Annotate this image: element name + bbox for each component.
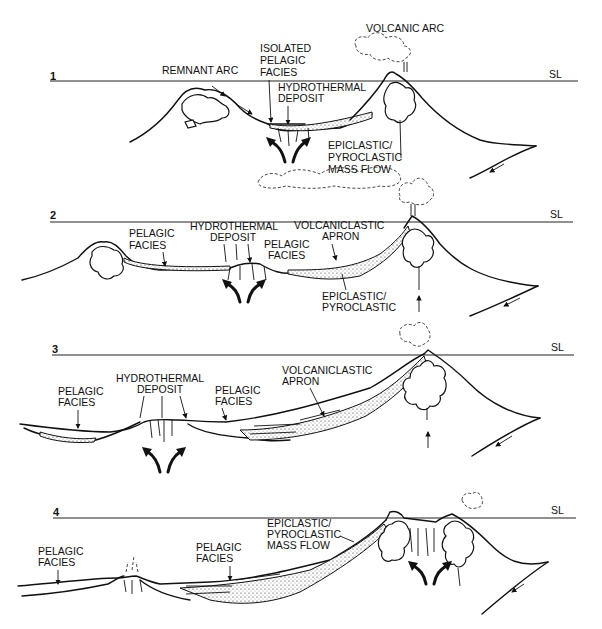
slab-arrow (496, 436, 512, 446)
label-facies: FACIES (215, 395, 252, 407)
upwelling-arrows (408, 561, 452, 584)
label-isolated: ISOLATED (260, 42, 312, 54)
hydrothermal-vent-plume (126, 556, 138, 572)
vein (150, 420, 172, 442)
panel-1: 1 SL REMNANT ARC ISOLATED (50, 22, 578, 188)
label-facies: FACIES (58, 396, 95, 408)
slab-arrow (490, 164, 504, 172)
leader-line (140, 396, 186, 418)
slab-arrow (504, 298, 520, 306)
leader-line (163, 252, 165, 266)
remnant-arc-intrusion (90, 247, 123, 279)
pelagic-lens (40, 432, 96, 443)
subducting-slab (482, 562, 548, 614)
leader-line (222, 408, 226, 420)
subducting-slab (470, 286, 538, 316)
basement (22, 576, 190, 600)
slide-arrow (236, 104, 252, 114)
volcanic-arc-intrusion (442, 521, 473, 567)
label-deposit: DEPOSIT (278, 92, 325, 104)
volcanic-arc-intrusion (403, 361, 446, 410)
label-pyroclastic: PYROCLASTIC (322, 301, 397, 313)
basin-sediment (270, 112, 372, 131)
label-apron: APRON (322, 230, 359, 242)
label-facies: FACIES (268, 249, 305, 261)
eruption-plume (400, 323, 430, 347)
eruption-plume (462, 492, 483, 508)
label-volcanic-arc: VOLCANIC ARC (366, 22, 445, 34)
eruption-plume (355, 33, 411, 62)
volcanic-arc-profile (350, 72, 536, 146)
sea-level-label: SL (551, 341, 564, 353)
slide-arrow (212, 86, 225, 96)
label-deposit: DEPOSIT (137, 383, 184, 395)
label-apron: APRON (282, 375, 319, 387)
label-facies: FACIES (260, 66, 297, 78)
pelagic-sediment (124, 258, 230, 271)
label-pelagic: PELAGIC (260, 54, 306, 66)
leader-line (340, 536, 354, 542)
volcanic-arc-intrusion (402, 229, 433, 267)
upwelling-arrows (142, 447, 186, 472)
subducting-slab (470, 146, 536, 178)
remnant-arc-intrusion (182, 95, 229, 124)
vent (404, 62, 407, 72)
feeder-dike (458, 568, 460, 586)
leader-line (332, 244, 336, 260)
leader-line (269, 80, 271, 122)
label-pyroclastic: PYROCLASTIC (328, 151, 403, 163)
sea-level-label: SL (551, 504, 564, 516)
rift-fissures (410, 528, 434, 556)
panel-number: 2 (50, 209, 56, 221)
label-remnant-arc: REMNANT ARC (162, 64, 239, 76)
label-mass-flow: MASS FLOW (328, 163, 391, 175)
vent (411, 204, 415, 216)
volcanic-arc-intrusion (384, 82, 416, 122)
sea-level-label: SL (550, 208, 563, 220)
label-deposit: DEPOSIT (210, 231, 257, 243)
panel-number: 3 (52, 343, 58, 355)
leader-line (224, 244, 250, 262)
eruption-plume (399, 178, 434, 205)
panel-2: 2 SL PELAGIC FACIES HYDROTHERMAL DEPOSIT… (22, 178, 573, 316)
label-mass-flow: MASS FLOW (267, 539, 330, 551)
subducting-slab (472, 418, 540, 456)
label-facies: FACIES (38, 556, 75, 568)
panel-number: 4 (53, 506, 60, 518)
sea-level-label: SL (549, 68, 562, 80)
label-epiclastic: EPICLASTIC/ (328, 139, 392, 151)
back-arc-basin-evolution-diagram: 1 SL REMNANT ARC ISOLATED (0, 0, 602, 629)
panel-number: 1 (50, 70, 56, 82)
label-facies: FACIES (196, 552, 233, 564)
hydrothermal-vein (124, 580, 142, 594)
upwelling-arrows (222, 279, 266, 302)
label-pelagic: PELAGIC (129, 227, 175, 239)
panel-3: 3 SL PELAGIC FACIES HYDROTHERMAL DEPOSIT… (20, 323, 574, 472)
panel-4: 4 SL PELAGIC FACIES PELAGIC FACIES EPICL… (18, 492, 576, 614)
label-facies: FACIES (129, 239, 166, 251)
